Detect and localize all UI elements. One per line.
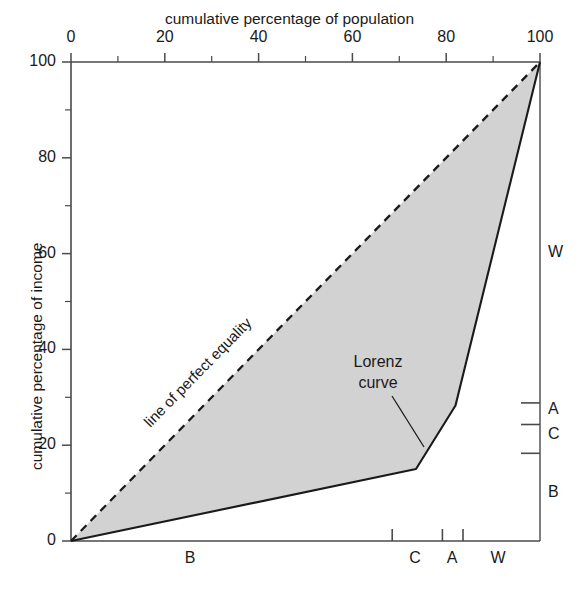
chart-canvas <box>0 0 579 591</box>
y-tick-label-20: 20 <box>10 435 56 453</box>
bottom-group-label-c: C <box>400 549 430 567</box>
bottom-group-label-b: B <box>175 549 205 567</box>
right-group-label-a: A <box>548 400 559 418</box>
bottom-group-label-w: W <box>483 549 513 567</box>
x-tick-label-80: 80 <box>426 28 466 46</box>
x-tick-label-60: 60 <box>332 28 372 46</box>
x-tick-label-40: 40 <box>239 28 279 46</box>
x-tick-label-100: 100 <box>518 28 562 46</box>
y-tick-label-80: 80 <box>10 148 56 166</box>
x-tick-label-0: 0 <box>51 28 91 46</box>
x-axis-minor-ticks <box>118 56 493 62</box>
right-group-label-c: C <box>548 425 560 443</box>
lorenz-curve-label-line2: curve <box>333 374 423 392</box>
y-tick-label-0: 0 <box>10 531 56 549</box>
x-tick-label-20: 20 <box>145 28 185 46</box>
right-group-label-b: B <box>548 483 559 501</box>
y-tick-label-100: 100 <box>10 52 56 70</box>
x-axis-title: cumulative percentage of population <box>0 10 579 27</box>
y-axis-minor-ticks <box>65 110 71 493</box>
y-tick-label-60: 60 <box>10 244 56 262</box>
right-group-ticks <box>521 403 540 453</box>
y-tick-label-40: 40 <box>10 339 56 357</box>
lorenz-curve-label-line1: Lorenz <box>333 353 423 371</box>
right-group-label-w: W <box>548 243 563 261</box>
lorenz-curve-figure: cumulative percentage of population cumu… <box>0 0 579 591</box>
bottom-group-label-a: A <box>437 549 467 567</box>
bottom-group-ticks <box>392 529 463 541</box>
